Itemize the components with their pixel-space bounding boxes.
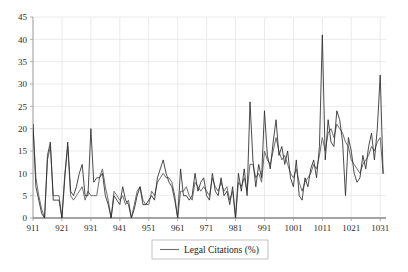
x-tick-label: 931 xyxy=(84,223,98,233)
x-tick-label: 1031 xyxy=(371,223,389,233)
y-tick-label: 0 xyxy=(23,213,28,223)
x-tick-label: 921 xyxy=(55,223,69,233)
x-tick-label: 991 xyxy=(258,223,272,233)
chart-legend[interactable]: Legal Citations (%) xyxy=(152,240,268,259)
legend-entry-label: Legal Citations (%) xyxy=(184,245,259,256)
y-tick-label: 35 xyxy=(18,57,28,67)
y-tick-label: 30 xyxy=(18,79,28,89)
y-tick-label: 25 xyxy=(18,102,28,112)
x-tick-label: 941 xyxy=(113,223,127,233)
x-tick-label: 1001 xyxy=(284,223,302,233)
x-tick-label: 1021 xyxy=(342,223,360,233)
x-tick-label: 1011 xyxy=(314,223,332,233)
x-tick-label: 971 xyxy=(200,223,214,233)
chart-container: 051015202530354045 911921931941951961971… xyxy=(0,0,408,272)
x-tick-label: 981 xyxy=(229,223,243,233)
y-tick-label: 40 xyxy=(18,35,28,45)
y-tick-label: 5 xyxy=(23,191,28,201)
x-tick-label: 961 xyxy=(171,223,185,233)
y-tick-label: 45 xyxy=(18,12,28,22)
line-chart: 051015202530354045 911921931941951961971… xyxy=(0,0,408,272)
x-tick-label: 911 xyxy=(26,223,39,233)
y-tick-label: 20 xyxy=(18,124,28,134)
y-tick-label: 10 xyxy=(18,169,28,179)
x-tick-label: 951 xyxy=(142,223,156,233)
y-tick-label: 15 xyxy=(18,146,28,156)
